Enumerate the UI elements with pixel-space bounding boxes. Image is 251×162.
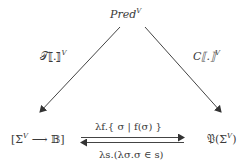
node-bottom-left: [ΣV ⟶ 𝔹]: [11, 134, 65, 145]
label-bottom-horizontal: λs.(λσ.σ ∈ s): [99, 150, 164, 160]
node-pred: PredV: [110, 9, 141, 20]
node-bl-open: [Σ: [11, 133, 23, 146]
label-right-diagonal: C⟦.⟧V: [193, 51, 220, 62]
node-bottom-right: 𝔓(ΣV): [207, 134, 236, 145]
node-bl-arrow: ⟶: [28, 133, 51, 146]
label-right-diagonal-sup: V: [215, 49, 220, 57]
right-diagonal-arrow: [145, 27, 221, 112]
label-left-diagonal: 𝒯⟦.⟧V: [40, 51, 67, 62]
label-left-diagonal-sup: V: [62, 49, 67, 57]
label-left-diagonal-base: 𝒯⟦.⟧: [40, 50, 62, 63]
node-bl-set: 𝔹: [51, 133, 60, 146]
label-right-diagonal-base: C⟦.⟧: [193, 50, 215, 63]
node-pred-base: Pred: [110, 8, 136, 21]
node-pred-sup: V: [136, 7, 141, 15]
node-br-base: 𝔓(Σ: [207, 133, 227, 146]
node-br-close: ): [232, 133, 236, 146]
node-bl-close: ]: [60, 133, 64, 146]
label-top-horizontal: λf.{ σ | f(σ) }: [95, 122, 162, 132]
commutative-diagram: PredV 𝒯⟦.⟧V C⟦.⟧V [ΣV ⟶ 𝔹] 𝔓(ΣV) λf.{ σ …: [0, 0, 251, 162]
left-diagonal-arrow: [40, 27, 120, 112]
